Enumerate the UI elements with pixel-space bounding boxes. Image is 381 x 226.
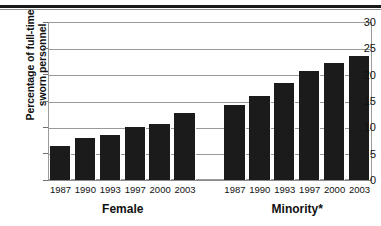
bar-series-layer bbox=[48, 22, 372, 180]
bar bbox=[174, 113, 195, 180]
y-axis-title-line1: Percentage of full-time bbox=[24, 10, 37, 121]
bar bbox=[149, 124, 170, 180]
y-axis-tick-label: 15 bbox=[337, 95, 381, 107]
x-axis-tick-label: 1987 bbox=[50, 184, 71, 195]
bar bbox=[50, 146, 71, 180]
x-axis-baseline bbox=[48, 180, 372, 181]
bar bbox=[274, 83, 295, 180]
bar bbox=[100, 135, 121, 180]
group-label: Minority* bbox=[272, 202, 323, 216]
y-axis-tick-label: 10 bbox=[337, 121, 381, 133]
y-axis-tick-label: 30 bbox=[337, 16, 381, 28]
y-axis-tick-mark bbox=[43, 153, 48, 154]
bar bbox=[224, 105, 245, 180]
chart-screenshot: Percentage of full-time sworn personnel … bbox=[0, 0, 381, 226]
x-axis-tick-label: 1993 bbox=[100, 184, 121, 195]
bar bbox=[125, 127, 146, 180]
y-axis-tick-mark bbox=[43, 127, 48, 128]
x-axis-tick-label: 1987 bbox=[224, 184, 245, 195]
y-axis-tick-label: 5 bbox=[337, 148, 381, 160]
x-axis-tick-label: 2003 bbox=[349, 184, 370, 195]
x-axis-tick-label: 2000 bbox=[324, 184, 345, 195]
y-axis-tick-label: 20 bbox=[337, 69, 381, 81]
x-axis-tick-label: 1990 bbox=[249, 184, 270, 195]
page-divider-rule bbox=[0, 5, 381, 8]
y-axis-tick-mark bbox=[43, 74, 48, 75]
x-axis-tick-label: 2000 bbox=[150, 184, 171, 195]
x-axis-tick-label: 1990 bbox=[75, 184, 96, 195]
y-axis-tick-mark bbox=[43, 48, 48, 49]
page-divider-rule-thin bbox=[0, 9, 381, 10]
y-axis-tick-mark bbox=[43, 101, 48, 102]
y-axis-tick-mark bbox=[43, 180, 48, 181]
x-axis-tick-label: 1997 bbox=[299, 184, 320, 195]
bar bbox=[249, 96, 270, 180]
bar bbox=[75, 138, 96, 180]
group-label: Female bbox=[102, 202, 143, 216]
y-axis-title-line2: sworn personnel bbox=[36, 10, 49, 121]
y-axis-tick-label: 25 bbox=[337, 42, 381, 54]
x-axis-tick-label: 1993 bbox=[274, 184, 295, 195]
x-axis-tick-label: 1997 bbox=[125, 184, 146, 195]
x-axis-tick-label: 2003 bbox=[174, 184, 195, 195]
bar bbox=[299, 71, 320, 180]
y-axis-tick-mark bbox=[43, 22, 48, 23]
